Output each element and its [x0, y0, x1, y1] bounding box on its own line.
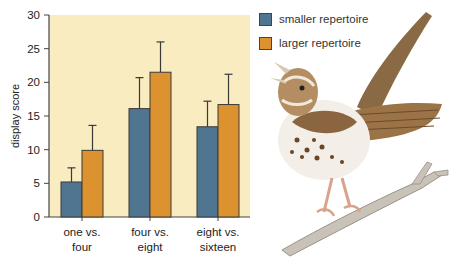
bar: [61, 182, 82, 217]
x-tick-label: eight vs.: [197, 226, 240, 238]
y-tick-label: 20: [27, 76, 40, 88]
x-tick-label: sixteen: [200, 241, 236, 253]
y-axis-label: display score: [9, 84, 21, 148]
y-tick-label: 15: [27, 110, 40, 122]
y-tick-label: 25: [27, 43, 40, 55]
song-sparrow-illustration: [262, 12, 458, 259]
x-tick-label: four vs.: [131, 226, 169, 238]
x-tick-label: one vs.: [63, 226, 100, 238]
bar: [129, 109, 150, 217]
y-tick-label: 0: [34, 211, 40, 223]
bar: [197, 127, 218, 217]
bar: [218, 105, 239, 217]
y-tick-label: 30: [27, 9, 40, 21]
bar: [82, 150, 103, 217]
x-tick-label: eight: [138, 241, 164, 253]
bar: [150, 72, 171, 217]
y-tick-label: 10: [27, 144, 40, 156]
x-tick-label: four: [72, 241, 92, 253]
y-tick-label: 5: [34, 177, 40, 189]
bar-chart: 051015202530display scoreone vs.fourfour…: [0, 0, 250, 259]
